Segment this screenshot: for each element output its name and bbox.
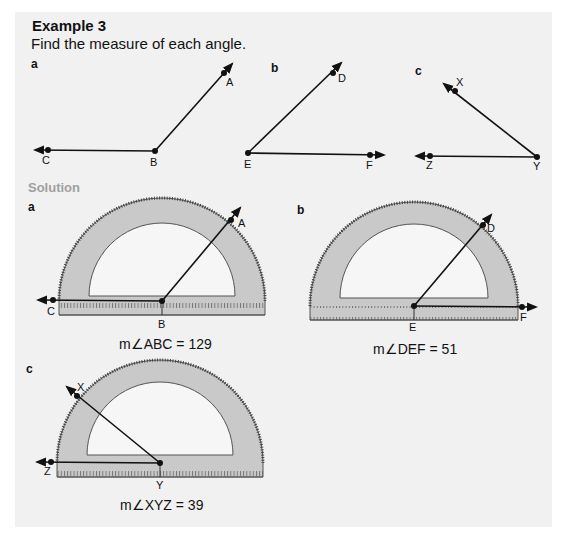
figures: [0, 0, 569, 547]
protractor-c: [37, 360, 263, 477]
protractor-b: [310, 202, 536, 320]
angle-xyz-figure: [416, 84, 540, 160]
angle-def-figure: [245, 63, 384, 158]
protractor-a: [38, 198, 265, 315]
angle-abc-figure: [35, 64, 232, 154]
